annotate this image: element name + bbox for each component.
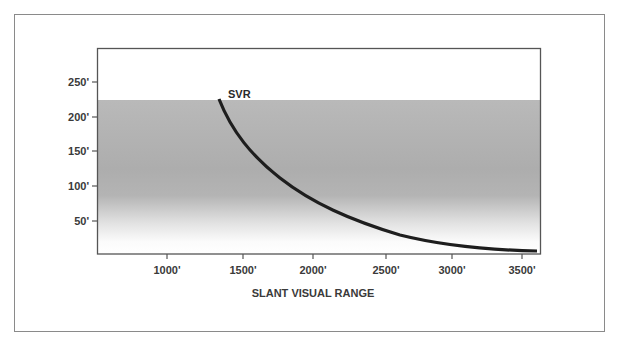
y-tick-label: 150' bbox=[68, 145, 89, 157]
x-tick-label: 2500' bbox=[372, 264, 399, 276]
x-tick-label: 1500' bbox=[229, 264, 256, 276]
x-tick-label: 1000' bbox=[153, 264, 180, 276]
x-axis: 1000'1500'2000'2500'3000'3500' bbox=[153, 254, 535, 276]
shaded-band bbox=[98, 100, 540, 254]
chart: 250'200'150'100'50' 1000'1500'2000'2500'… bbox=[0, 0, 619, 348]
y-tick-label: 250' bbox=[68, 76, 89, 88]
x-tick-label: 2000' bbox=[299, 264, 326, 276]
x-axis-title: SLANT VISUAL RANGE bbox=[252, 287, 375, 299]
y-tick-label: 100' bbox=[68, 180, 89, 192]
y-tick-label: 50' bbox=[74, 215, 89, 227]
svr-label: SVR bbox=[228, 88, 251, 100]
y-axis: 250'200'150'100'50' bbox=[68, 76, 97, 227]
x-tick-label: 3500' bbox=[508, 264, 535, 276]
y-tick-label: 200' bbox=[68, 111, 89, 123]
x-tick-label: 3000' bbox=[438, 264, 465, 276]
